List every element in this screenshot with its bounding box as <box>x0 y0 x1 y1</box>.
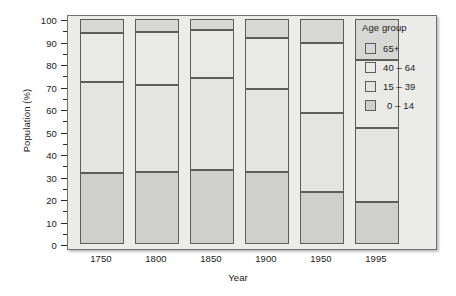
x-tick-label: 1850 <box>181 253 241 264</box>
legend-swatch <box>365 62 376 73</box>
legend-label: 40 – 64 <box>383 62 415 73</box>
legend-item: 0 – 14 <box>365 96 433 115</box>
legend-title: Age group <box>362 22 433 33</box>
legend-label: 15 – 39 <box>383 81 415 92</box>
legend-item: 15 – 39 <box>365 77 433 96</box>
legend-swatch <box>365 100 376 111</box>
x-tick-label: 1950 <box>291 253 351 264</box>
legend-items: 65+40 – 6415 – 390 – 14 <box>355 39 433 115</box>
stacked-bar-chart-figure: Population (%) 0102030405060708090100 17… <box>0 0 456 296</box>
legend-item: 40 – 64 <box>365 58 433 77</box>
legend-item: 65+ <box>365 39 433 58</box>
legend-swatch <box>365 81 376 92</box>
legend-label: 65+ <box>383 43 399 54</box>
x-tick-label: 1750 <box>71 253 131 264</box>
legend: Age group 65+40 – 6415 – 390 – 14 <box>355 22 433 115</box>
x-tick-label: 1900 <box>236 253 296 264</box>
legend-label: 0 – 14 <box>387 100 414 111</box>
x-axis-title: Year <box>10 272 456 283</box>
x-tick-label: 1800 <box>126 253 186 264</box>
x-tick-label: 1995 <box>346 253 406 264</box>
legend-swatch <box>365 43 376 54</box>
